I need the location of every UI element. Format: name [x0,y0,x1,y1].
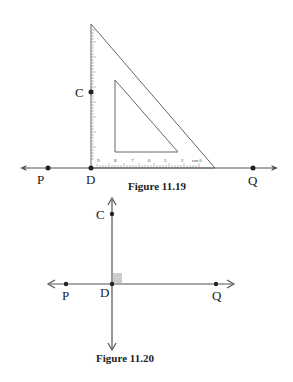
label-p: P [62,288,69,303]
line-pq-2 [48,280,234,288]
point-d [89,166,94,171]
point-q [214,282,218,286]
svg-text:2: 2 [181,158,184,163]
vertical-ruler-ticks [91,30,96,159]
geometry-figures: 9 8 7 6 5 2 cm 0 P D Q C Figure 11.19 [0,0,293,382]
label-q: Q [212,288,222,303]
horizontal-ruler-ticks [97,163,199,168]
label-c: C [75,85,84,100]
figure-11-19: 9 8 7 6 5 2 cm 0 P D Q C Figure 11.19 [20,24,278,192]
label-c: C [96,207,105,222]
caption-figure-11-20: Figure 11.20 [96,352,154,364]
ruler-labels: 9 8 7 6 5 2 cm 0 [97,158,202,163]
caption-figure-11-19: Figure 11.19 [128,180,186,192]
label-q: Q [248,173,258,188]
label-d: D [100,285,109,300]
svg-text:7: 7 [131,158,134,163]
set-square: 9 8 7 6 5 2 cm 0 [91,24,215,168]
svg-text:cm 0: cm 0 [192,158,202,163]
right-angle-marker [113,273,122,283]
point-q [251,166,256,171]
label-p: P [37,172,44,187]
point-p [64,282,68,286]
point-d [110,282,114,286]
point-p [46,166,51,171]
point-c [110,212,114,216]
figure-11-20: P D Q C Figure 11.20 [48,198,234,364]
label-d: D [86,172,95,187]
svg-text:8: 8 [114,158,117,163]
svg-text:5: 5 [164,158,167,163]
svg-text:9: 9 [97,158,100,163]
svg-text:6: 6 [148,158,151,163]
point-c [89,90,94,95]
